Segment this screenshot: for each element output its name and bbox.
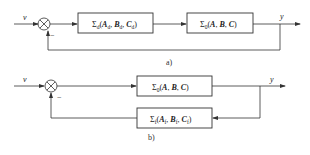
diagram-a: v − Σd(Ad, Bd, Cd) Σ0(A, B, C) y xyxy=(14,12,300,67)
block-diagram: v − Σd(Ad, Bd, Cd) Σ0(A, B, C) y xyxy=(0,0,310,155)
output-label-b: y xyxy=(269,75,274,84)
plant-block-a: Σ0(A, B, C) xyxy=(187,13,253,33)
feedback-path-b xyxy=(51,93,137,118)
caption-a: a) xyxy=(166,58,173,67)
feedback-block-b: Σf(Af, Bf, Cf) xyxy=(137,108,212,128)
feedback-sign-a: − xyxy=(50,31,55,40)
plant-block-b: Σ0(A, B, C) xyxy=(137,76,212,96)
diagram-b: v − Σ0(A, B, C) y Σf(Af, Bf, Cf) b) xyxy=(14,75,285,142)
output-label-a: y xyxy=(279,12,284,21)
caption-b: b) xyxy=(148,133,155,142)
feedback-label-b: Σf(Af, Bf, Cf) xyxy=(150,115,192,125)
summing-junction-b xyxy=(45,80,57,92)
controller-label-a: Σd(Ad, Bd, Cd) xyxy=(92,20,137,30)
controller-block-a: Σd(Ad, Bd, Cd) xyxy=(78,13,153,33)
input-label-b: v xyxy=(23,75,27,84)
summing-junction-a xyxy=(38,18,50,30)
feedback-sign-b: − xyxy=(57,93,62,102)
input-label-a: v xyxy=(23,13,27,22)
feedback-to-observer-b xyxy=(213,86,260,118)
